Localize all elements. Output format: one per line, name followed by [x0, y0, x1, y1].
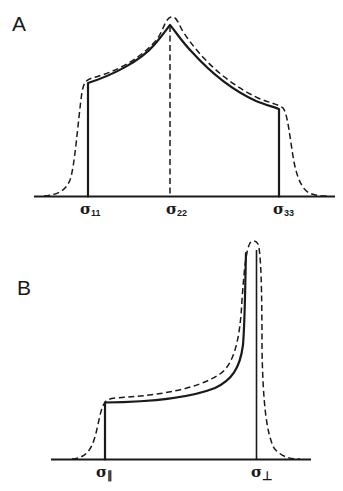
- panel-b-dashed-curve: [72, 241, 300, 459]
- panel-a-label: A: [12, 12, 26, 35]
- panel-b: B σ ∥ σ ⊥: [17, 241, 311, 483]
- powder-pattern-figure: A σ 11 σ 22 σ 33 B: [0, 0, 343, 491]
- sigma-subscript: 33: [284, 208, 294, 218]
- sigma-subscript: 22: [177, 208, 187, 218]
- panel-a-sigma33-label: σ 33: [273, 200, 294, 218]
- sigma-symbol: σ: [166, 200, 177, 218]
- panel-b-label: B: [17, 276, 31, 299]
- panel-b-sigma-parallel-label: σ ∥: [96, 463, 113, 482]
- sigma-subscript: 11: [91, 208, 101, 218]
- sigma-symbol: σ: [273, 200, 284, 218]
- sigma-subscript: ⊥: [262, 469, 272, 483]
- panel-a-sigma11-label: σ 11: [80, 200, 101, 218]
- panel-a: A σ 11 σ 22 σ 33: [12, 12, 335, 218]
- sigma-symbol: σ: [96, 463, 107, 481]
- panel-b-sigma-perp-label: σ ⊥: [251, 463, 272, 483]
- sigma-symbol: σ: [251, 463, 262, 481]
- sigma-subscript: ∥: [107, 469, 113, 482]
- panel-b-solid-curve: [105, 253, 246, 460]
- panel-a-solid-curve: [88, 25, 279, 197]
- sigma-symbol: σ: [80, 200, 91, 218]
- panel-a-sigma22-label: σ 22: [166, 200, 187, 218]
